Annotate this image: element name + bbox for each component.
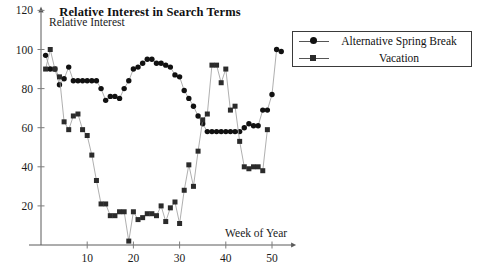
data-point-marker [279, 49, 284, 54]
legend-item-alternative-spring-break[interactable]: Alternative Spring Break [293, 32, 471, 49]
x-axis-arrow-icon [291, 242, 296, 247]
data-point-marker [196, 149, 201, 154]
data-point-marker [71, 113, 76, 118]
data-point-marker [126, 78, 131, 83]
data-point-marker [145, 57, 150, 62]
x-tick-label: 50 [266, 252, 278, 264]
data-point-marker [172, 199, 177, 204]
data-point-marker [154, 213, 159, 218]
data-point-marker [274, 47, 279, 52]
data-point-marker [149, 57, 154, 62]
data-point-marker [209, 129, 214, 134]
data-point-marker [126, 239, 131, 244]
data-point-marker [121, 86, 126, 91]
data-point-marker [182, 88, 187, 93]
data-point-marker [154, 60, 159, 65]
data-point-marker [218, 129, 223, 134]
data-point-marker [117, 209, 122, 214]
x-tick-label: 10 [81, 252, 93, 264]
y-tick-label: 20 [22, 200, 34, 212]
data-point-marker [182, 188, 187, 193]
data-point-marker [168, 64, 173, 69]
data-point-marker [48, 47, 53, 52]
data-point-marker [80, 127, 85, 132]
data-point-marker [260, 107, 265, 112]
data-point-marker [223, 67, 228, 72]
data-point-marker [195, 113, 200, 118]
data-point-marker [48, 66, 53, 71]
data-point-marker [237, 139, 242, 144]
data-point-marker [269, 92, 274, 97]
x-tick-label: 20 [128, 252, 140, 264]
data-point-marker [103, 98, 108, 103]
data-point-marker [265, 127, 270, 132]
legend-marker-square-icon [297, 51, 331, 65]
data-point-marker [62, 119, 67, 124]
data-point-marker [200, 117, 205, 122]
data-point-marker [177, 74, 182, 79]
x-tick-label: 30 [174, 252, 186, 264]
series-line-vacation [46, 50, 268, 242]
data-point-marker [108, 94, 113, 99]
data-point-marker [103, 201, 108, 206]
data-point-marker [228, 108, 233, 113]
chart-legend: Alternative Spring Break Vacation [292, 31, 472, 67]
legend-item-vacation[interactable]: Vacation [293, 49, 471, 66]
data-point-marker [246, 166, 251, 171]
data-point-marker [232, 129, 237, 134]
data-point-marker [233, 104, 238, 109]
data-point-marker [57, 82, 62, 87]
data-point-marker [66, 64, 71, 69]
data-point-marker [131, 66, 136, 71]
data-point-marker [149, 211, 154, 216]
data-point-marker [228, 129, 233, 134]
data-point-marker [177, 221, 182, 226]
data-point-marker [205, 112, 210, 117]
data-point-marker [158, 60, 163, 65]
data-point-marker [251, 164, 256, 169]
data-point-marker [52, 67, 57, 72]
data-point-marker [135, 64, 140, 69]
data-point-marker [94, 178, 99, 183]
data-point-marker [80, 78, 85, 83]
data-point-marker [136, 217, 141, 222]
data-point-marker [66, 127, 71, 132]
data-point-marker [242, 125, 247, 130]
data-point-marker [242, 164, 247, 169]
data-point-marker [145, 211, 150, 216]
data-point-marker [85, 78, 90, 83]
legend-label: Vacation [331, 52, 471, 64]
data-point-marker [209, 63, 214, 68]
chart-container: Relative Interest in Search Terms 204060… [0, 0, 487, 276]
data-point-marker [94, 78, 99, 83]
data-point-marker [98, 86, 103, 91]
data-point-marker [61, 76, 66, 81]
data-point-marker [163, 219, 168, 224]
y-tick-label: 80 [22, 83, 34, 95]
legend-label: Alternative Spring Break [331, 35, 471, 47]
data-point-marker [89, 78, 94, 83]
data-point-marker [260, 168, 265, 173]
data-point-marker [43, 67, 48, 72]
data-point-marker [223, 129, 228, 134]
data-point-marker [163, 62, 168, 67]
data-point-marker [172, 72, 177, 77]
data-point-marker [256, 164, 261, 169]
data-point-marker [99, 201, 104, 206]
x-tick-label: 40 [220, 252, 232, 264]
data-point-marker [117, 96, 122, 101]
y-tick-label: 40 [22, 161, 34, 173]
data-point-marker [205, 129, 210, 134]
y-tick-label: 120 [16, 4, 34, 16]
data-point-marker [75, 112, 80, 117]
data-point-marker [186, 162, 191, 167]
data-point-marker [108, 213, 113, 218]
y-tick-label: 60 [22, 122, 34, 134]
data-point-marker [219, 80, 224, 85]
data-point-marker [246, 121, 251, 126]
data-point-marker [131, 209, 136, 214]
data-point-marker [159, 203, 164, 208]
data-point-marker [112, 213, 117, 218]
data-point-marker [255, 123, 260, 128]
y-axis-label: Relative Interest [49, 16, 125, 28]
